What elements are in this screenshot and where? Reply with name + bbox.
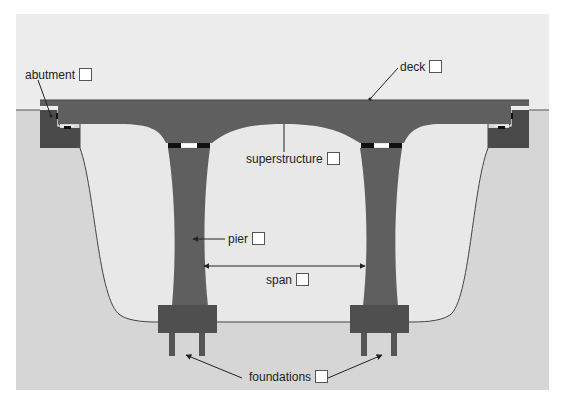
label-superstructure: superstructure xyxy=(246,152,340,165)
label-span: span xyxy=(266,273,309,286)
sky xyxy=(16,14,549,110)
pile-left-1 xyxy=(169,333,175,356)
pier-answer-box[interactable] xyxy=(252,232,265,245)
label-deck: deck xyxy=(400,60,442,73)
superstructure-answer-box[interactable] xyxy=(327,152,340,165)
pier-label-text: pier xyxy=(228,233,248,245)
abutment-answer-box[interactable] xyxy=(79,68,92,81)
foundations-label-text: foundations xyxy=(249,371,311,383)
deck-answer-box[interactable] xyxy=(429,60,442,73)
span-label-text: span xyxy=(266,274,292,286)
bridge-diagram: abutment deck superstructure pier span f… xyxy=(0,0,565,402)
span-answer-box[interactable] xyxy=(296,273,309,286)
pile-right-1 xyxy=(361,333,367,356)
pile-left-2 xyxy=(199,333,205,356)
label-foundations: foundations xyxy=(249,370,328,383)
label-abutment: abutment xyxy=(25,68,92,81)
foundations-answer-box[interactable] xyxy=(315,370,328,383)
pile-right-2 xyxy=(391,333,397,356)
footing-left xyxy=(158,305,217,333)
footing-right xyxy=(350,305,409,333)
bridge-illustration xyxy=(0,0,565,402)
deck-label-text: deck xyxy=(400,61,425,73)
superstructure-label-text: superstructure xyxy=(246,153,323,165)
abutment-label-text: abutment xyxy=(25,69,75,81)
label-pier: pier xyxy=(228,232,265,245)
